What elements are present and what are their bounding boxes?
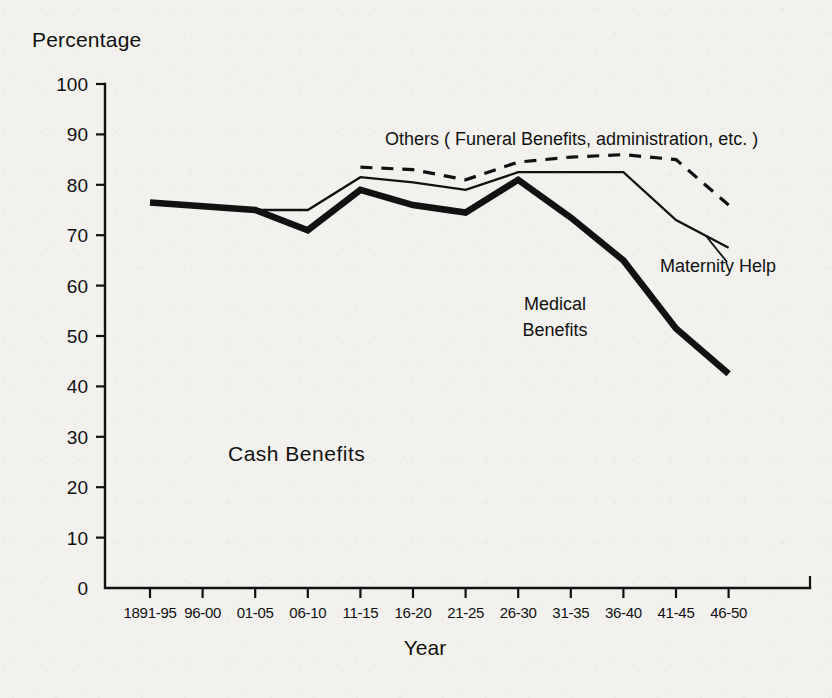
line-chart-figure: Percentage 0102030405060708090100 1891-9… — [0, 0, 832, 698]
x-tick-label: 11-15 — [343, 604, 379, 621]
y-tick-label: 70 — [67, 225, 88, 246]
annotation-others: Others ( Funeral Benefits, administratio… — [385, 129, 758, 149]
y-tick-label: 10 — [67, 528, 88, 549]
x-tick-label: 31-35 — [552, 604, 589, 621]
y-tick-label: 0 — [77, 578, 88, 599]
x-tick-label: 41-45 — [658, 604, 695, 621]
x-axis-title: Year — [0, 636, 832, 660]
annotation-medical-benefits-line2: Benefits — [522, 320, 587, 340]
y-tick-label: 50 — [67, 326, 88, 347]
x-tick-label: 46-50 — [710, 604, 747, 621]
y-tick-label: 60 — [67, 276, 88, 297]
y-tick-label: 90 — [67, 124, 88, 145]
annotation-maternity-help: Maternity Help — [660, 256, 776, 276]
annotation-cash-benefits: Cash Benefits — [228, 442, 365, 465]
y-tick-label: 100 — [56, 74, 88, 95]
series-line-maternity-help — [255, 172, 728, 248]
y-tick-label: 20 — [67, 477, 88, 498]
series-line-cash-benefits — [150, 180, 729, 374]
x-tick-label: 26-30 — [500, 604, 537, 621]
y-tick-label: 80 — [67, 175, 88, 196]
plot-area: 0102030405060708090100 1891-9596-0001-05… — [0, 0, 832, 698]
axis-lines — [105, 84, 810, 588]
x-tick-label: 36-40 — [605, 604, 642, 621]
x-tick-label: 16-20 — [395, 604, 432, 621]
x-axis-title-text: Year — [404, 636, 446, 659]
y-axis-ticks: 0102030405060708090100 — [56, 74, 105, 599]
x-axis-ticks: 1891-9596-0001-0506-1011-1516-2021-2526-… — [124, 576, 810, 621]
annotation-medical-benefits-line1: Medical — [524, 294, 586, 314]
x-tick-label: 06-10 — [289, 604, 326, 621]
x-tick-label: 21-25 — [447, 604, 484, 621]
x-tick-label: 1891-95 — [124, 604, 177, 621]
x-tick-label: 01-05 — [237, 604, 274, 621]
y-tick-label: 30 — [67, 427, 88, 448]
x-tick-label: 96-00 — [184, 604, 221, 621]
y-tick-label: 40 — [67, 376, 88, 397]
